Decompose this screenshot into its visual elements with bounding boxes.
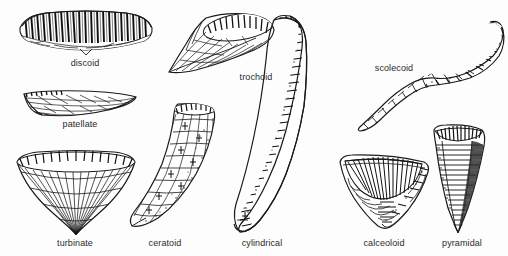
specimen-calceoloid — [336, 152, 434, 230]
label-ceratoid: ceratoid — [149, 238, 182, 248]
specimen-turbinate — [14, 150, 138, 236]
label-patellate: patellate — [63, 119, 98, 129]
specimen-discoid — [16, 8, 156, 56]
label-pyramidal: pyramidal — [442, 238, 482, 248]
label-cylindrical: cylindrical — [242, 238, 283, 248]
specimen-ceratoid — [126, 100, 220, 234]
label-discoid: discoid — [71, 58, 100, 68]
specimen-scolecoid — [352, 18, 506, 132]
specimen-cylindrical — [228, 14, 308, 234]
specimen-trochoid — [166, 10, 278, 76]
label-scolecoid: scolecoid — [375, 63, 413, 73]
label-trochoid: trochoid — [240, 72, 273, 82]
label-turbinate: turbinate — [57, 238, 93, 248]
label-calceoloid: calceoloid — [363, 238, 404, 248]
specimen-patellate — [22, 88, 142, 122]
coral-growth-forms-figure: discoid — [0, 0, 508, 256]
specimen-pyramidal — [428, 122, 492, 234]
